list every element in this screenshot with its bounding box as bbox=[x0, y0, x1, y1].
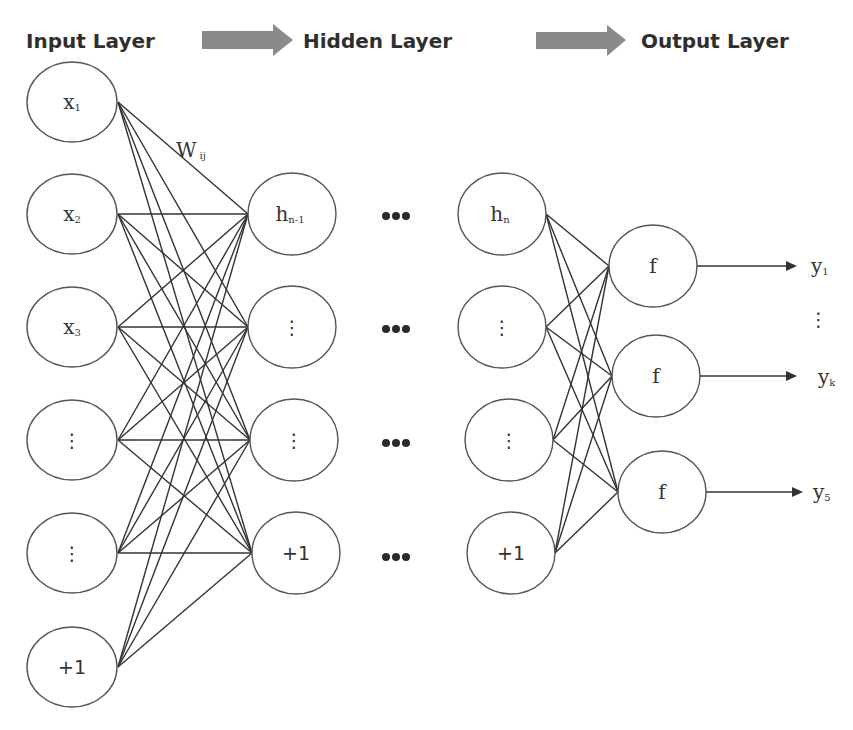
output-arrows bbox=[697, 261, 803, 497]
arrow-right-icon bbox=[786, 371, 797, 381]
hidden-node: hn-1 bbox=[248, 173, 336, 255]
output-layer: f f f bbox=[609, 225, 706, 533]
input-layer-title: Input Layer bbox=[26, 29, 155, 53]
hidden-output-edges bbox=[546, 214, 618, 553]
output-node: f bbox=[609, 225, 697, 307]
layer-arrow-icon bbox=[202, 24, 293, 56]
hidden-bias-node: +1 bbox=[252, 512, 340, 594]
neural-network-diagram: Input Layer Hidden Layer Output Layer bbox=[0, 0, 853, 730]
hidden-node: hn bbox=[458, 173, 546, 255]
svg-text:+1: +1 bbox=[58, 656, 86, 678]
output-label: y5 bbox=[812, 480, 831, 504]
output-labels: y1 ⋮ yk y5 bbox=[809, 254, 836, 504]
layer-ellipsis bbox=[382, 212, 410, 561]
hidden-node-ellipsis: ⋮ bbox=[465, 399, 553, 481]
ellipsis-dots-icon bbox=[382, 553, 410, 561]
input-node: x1 bbox=[27, 62, 117, 142]
hidden-bias-node: +1 bbox=[467, 512, 555, 594]
hidden-node-ellipsis: ⋮ bbox=[458, 286, 546, 368]
output-label: y1 bbox=[810, 254, 829, 278]
svg-text:+1: +1 bbox=[282, 542, 310, 564]
svg-text:+1: +1 bbox=[497, 542, 525, 564]
layer-arrow-icon bbox=[536, 25, 626, 56]
svg-text:⋮: ⋮ bbox=[63, 429, 82, 451]
arrow-right-icon bbox=[792, 487, 803, 497]
output-label: yk bbox=[817, 365, 836, 389]
output-node: f bbox=[612, 335, 700, 417]
svg-text:⋮: ⋮ bbox=[63, 542, 82, 564]
input-node: x2 bbox=[27, 174, 117, 254]
hidden-layer-title: Hidden Layer bbox=[303, 29, 452, 53]
hidden-layer-n-minus-1: hn-1 ⋮ ⋮ +1 bbox=[248, 173, 340, 594]
ellipsis-dots-icon bbox=[382, 439, 410, 447]
hidden-node-ellipsis: ⋮ bbox=[248, 286, 336, 368]
input-node-ellipsis: ⋮ bbox=[27, 400, 117, 480]
svg-text:⋮: ⋮ bbox=[500, 429, 519, 451]
arrow-right-icon bbox=[786, 261, 797, 271]
input-node: x3 bbox=[27, 287, 117, 367]
ellipsis-dots-icon bbox=[382, 325, 410, 333]
weight-label: Wij bbox=[176, 138, 206, 162]
svg-text:⋮: ⋮ bbox=[283, 316, 302, 338]
output-layer-title: Output Layer bbox=[641, 29, 789, 53]
hidden-layer-n: hn ⋮ ⋮ +1 bbox=[458, 173, 555, 594]
hidden-node-ellipsis: ⋮ bbox=[250, 399, 338, 481]
svg-text:⋮: ⋮ bbox=[493, 316, 512, 338]
input-hidden-edges bbox=[118, 102, 252, 667]
input-layer: x1 x2 x3 ⋮ ⋮ +1 bbox=[27, 62, 117, 707]
svg-text:⋮: ⋮ bbox=[285, 429, 304, 451]
output-label-ellipsis: ⋮ bbox=[809, 308, 828, 330]
output-node: f bbox=[618, 451, 706, 533]
ellipsis-dots-icon bbox=[382, 212, 410, 220]
input-node-ellipsis: ⋮ bbox=[27, 513, 117, 593]
input-bias-node: +1 bbox=[27, 627, 117, 707]
